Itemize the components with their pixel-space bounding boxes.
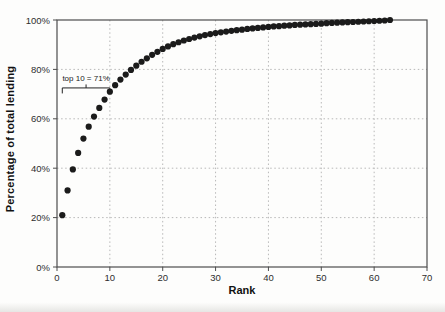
data-point — [244, 26, 250, 32]
data-point — [64, 187, 70, 193]
data-point — [123, 71, 129, 77]
data-point — [154, 49, 160, 55]
data-point — [138, 59, 144, 65]
data-point — [255, 25, 261, 31]
data-point — [260, 24, 266, 30]
data-point — [371, 18, 377, 24]
data-point — [70, 166, 76, 172]
data-point — [170, 41, 176, 47]
data-point — [165, 43, 171, 49]
data-point — [239, 27, 245, 33]
data-point — [308, 21, 314, 27]
data-point — [144, 55, 150, 61]
data-point — [265, 24, 271, 30]
data-point — [197, 33, 203, 39]
data-point — [223, 29, 229, 35]
data-point — [297, 22, 303, 28]
data-point — [59, 212, 65, 218]
data-point — [313, 21, 319, 27]
lending-chart-canvas: 0102030405060700%20%40%60%80%100%top 10 … — [0, 0, 445, 312]
data-point — [286, 22, 292, 28]
data-point — [128, 67, 134, 73]
y-axis-title: Percentage of total lending — [4, 39, 16, 239]
x-tick-label: 50 — [316, 272, 327, 283]
data-point — [202, 32, 208, 38]
data-point — [323, 20, 329, 26]
data-point — [366, 18, 372, 24]
data-point — [339, 19, 345, 25]
data-point — [329, 20, 335, 26]
data-point — [218, 29, 224, 35]
data-point — [112, 82, 118, 88]
data-point — [101, 96, 107, 102]
data-point — [271, 23, 277, 29]
data-point — [355, 19, 361, 25]
x-tick-label: 70 — [422, 272, 433, 283]
x-tick-label: 0 — [54, 272, 59, 283]
data-point — [228, 28, 234, 34]
y-tick-label: 40% — [31, 163, 51, 174]
data-point — [292, 22, 298, 28]
annotation-bracket — [62, 84, 110, 93]
x-tick-label: 10 — [105, 272, 116, 283]
data-point — [334, 20, 340, 26]
x-tick-label: 30 — [210, 272, 221, 283]
x-tick-label: 40 — [263, 272, 274, 283]
data-point — [186, 36, 192, 42]
x-axis-title: Rank — [57, 284, 427, 296]
data-point — [86, 124, 92, 130]
data-point — [149, 52, 155, 58]
data-series-dots — [59, 17, 393, 218]
data-point — [207, 31, 213, 37]
data-point — [382, 17, 388, 23]
y-tick-label: 100% — [26, 15, 51, 26]
y-tick-label: 20% — [31, 212, 51, 223]
annotation-label: top 10 = 71% — [62, 74, 109, 83]
data-point — [360, 18, 366, 24]
y-tick-label: 0% — [36, 262, 50, 273]
y-tick-label: 60% — [31, 113, 51, 124]
data-point — [281, 23, 287, 29]
data-point — [117, 76, 123, 82]
data-point — [376, 18, 382, 24]
data-point — [96, 105, 102, 111]
data-point — [80, 135, 86, 141]
x-tick-label: 60 — [369, 272, 380, 283]
x-tick-label: 20 — [157, 272, 168, 283]
data-point — [191, 34, 197, 40]
data-point — [91, 113, 97, 119]
data-point — [212, 30, 218, 36]
data-point — [318, 21, 324, 27]
data-point — [175, 39, 181, 45]
data-point — [75, 150, 81, 156]
data-point — [107, 89, 113, 95]
data-point — [249, 25, 255, 31]
y-tick-label: 80% — [31, 64, 51, 75]
data-point — [276, 23, 282, 29]
data-point — [302, 21, 308, 27]
data-point — [181, 37, 187, 43]
data-point — [345, 19, 351, 25]
data-point — [234, 27, 240, 33]
plot-border — [57, 20, 427, 267]
data-point — [387, 17, 393, 23]
data-point — [160, 46, 166, 52]
lending-concentration-figure: 0102030405060700%20%40%60%80%100%top 10 … — [0, 0, 445, 312]
data-point — [133, 63, 139, 69]
data-point — [350, 19, 356, 25]
